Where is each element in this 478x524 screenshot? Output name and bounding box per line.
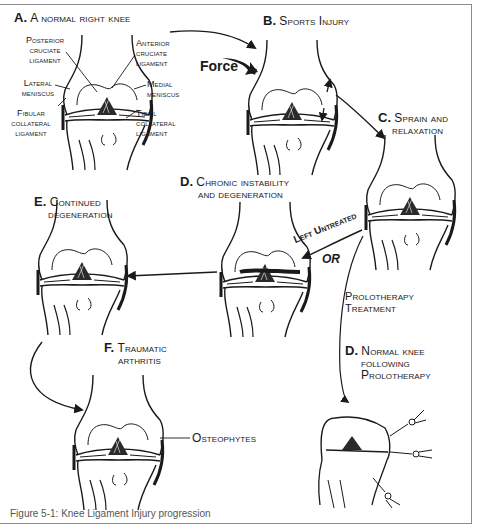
or-label: OR (322, 252, 340, 266)
knee-f-arthritis (74, 375, 163, 510)
knee-b-injury (248, 40, 337, 175)
panel-c-title: C. Sprain and relaxation (378, 112, 448, 136)
knee-d-prolotherapy (319, 410, 432, 508)
label-lateral-meniscus: Lateral meniscus (18, 78, 58, 98)
panel-d-normal-title: D. Normal knee following Prolotherapy (345, 345, 431, 381)
knee-e-degeneration (38, 200, 127, 335)
panel-e-title: E. Continued degeneration (34, 196, 113, 220)
label-posterior-cruciate-ligament: Posterior cruciate ligament (22, 35, 68, 65)
figure-caption: Figure 5-1: Knee Ligament Injury progres… (10, 508, 211, 519)
knee-c-sprain (366, 135, 455, 270)
label-osteophytes: Osteophytes (192, 432, 256, 444)
panel-f-title: F. Traumatic arthritis (104, 342, 167, 366)
prolotherapy-treatment-label: Prolotherapy Treatment (345, 290, 414, 314)
panel-a-title: A. A normal right knee (14, 12, 131, 24)
panel-b-title: B. Sports Injury (263, 15, 349, 27)
panel-d-chronic-title: D. Chronic instability and degeneration (180, 176, 289, 200)
label-fibular-collateral-ligament: Fibular collateral ligament (10, 108, 52, 138)
label-tibial-collateral-ligament: Tibial collateral ligament (136, 108, 186, 138)
leader-lines (55, 52, 146, 118)
label-anterior-cruciate-ligament: Anterior cruciate ligament (136, 38, 186, 68)
label-medial-meniscus: Medial meniscus (147, 79, 187, 99)
force-label: Force (200, 58, 238, 74)
